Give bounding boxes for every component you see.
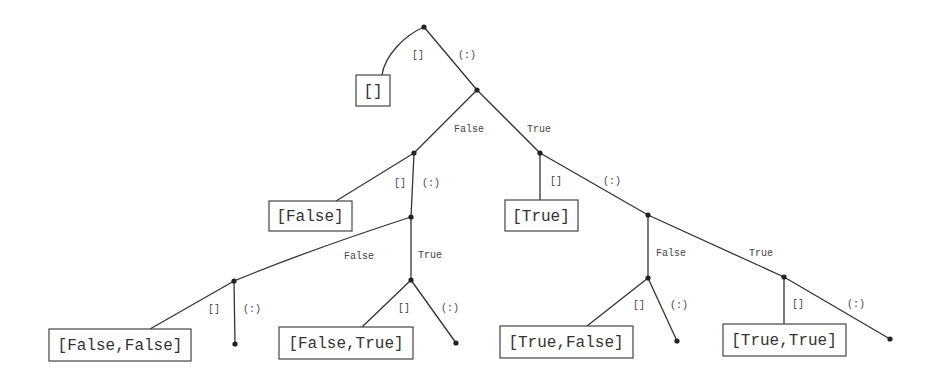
leaf-node-ft (453, 340, 458, 345)
edge-label: True (527, 124, 551, 135)
leaf-label-true-true: [True,True] (731, 332, 837, 350)
edge-label: [] (394, 178, 406, 189)
edge-label: (:) (603, 176, 621, 187)
leaf-label-true-false: [True,False] (508, 334, 623, 352)
edge-label: True (749, 248, 773, 259)
leaf-node-tt (887, 336, 892, 341)
edge-label: True (418, 250, 442, 261)
node-true-true (781, 274, 786, 279)
node-true-cons (645, 212, 650, 217)
node-n1 (474, 87, 479, 92)
edge-n1-false (414, 90, 477, 153)
edge-nF-empty (336, 153, 414, 201)
leaf-label-false-false: [False,False] (58, 337, 183, 355)
leaf-node-ff (232, 341, 237, 346)
edge-labels: [] (:) False True [] (:) [] (:) False Tr… (208, 50, 865, 315)
leaf-box-false-false: [False,False] (49, 329, 191, 361)
node-false-cons (408, 214, 413, 219)
leaf-box-true-true: [True,True] (723, 324, 846, 356)
edge-n1-true (477, 90, 540, 153)
edge-label: (:) (441, 303, 459, 314)
edge-label: (:) (847, 299, 865, 310)
leaf-box-true-false: [True,False] (500, 326, 633, 358)
edge-nFF-empty (150, 281, 234, 329)
node-true (537, 150, 542, 155)
leaf-label-false: [False] (276, 208, 343, 226)
leaf-label-true: [True] (512, 208, 570, 226)
leaf-box-false-true: [False,True] (279, 327, 413, 359)
leaf-box-true: [True] (505, 200, 578, 231)
edge-label: [] (208, 304, 220, 315)
leaf-box-false: [False] (269, 201, 352, 231)
edge-nF-cons (411, 153, 414, 217)
edge-label: (:) (670, 300, 688, 311)
leaf-node-tf (674, 338, 679, 343)
tree-svg: [] [False] [True] [False,False] [False,T… (0, 0, 938, 378)
node-true-false (645, 275, 650, 280)
node-root (421, 24, 426, 29)
leaf-label-empty: [] (363, 83, 382, 101)
decision-tree-diagram: [] [False] [True] [False,False] [False,T… (0, 0, 938, 378)
edge-label: False (344, 251, 374, 262)
edge-label: [] (550, 176, 562, 187)
leaf-label-false-true: [False,True] (288, 335, 403, 353)
node-false (411, 150, 416, 155)
edge-nFF-cons (234, 281, 235, 344)
edge-label: (:) (422, 178, 440, 189)
edge-label: [] (398, 303, 410, 314)
node-false-false (231, 278, 236, 283)
edge-label: (:) (458, 50, 476, 61)
edges (150, 27, 890, 344)
node-false-true (408, 277, 413, 282)
edge-label: [] (792, 299, 804, 310)
edge-label: (:) (243, 304, 261, 315)
edge-label: [] (633, 300, 645, 311)
edge-label: False (454, 124, 484, 135)
edge-label: [] (412, 50, 424, 61)
edge-label: False (656, 248, 686, 259)
edge-nTc-true (648, 215, 784, 277)
leaf-box-empty: [] (356, 75, 390, 106)
